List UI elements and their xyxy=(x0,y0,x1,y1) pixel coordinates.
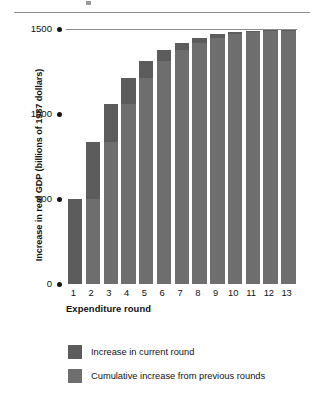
bar-round-6 xyxy=(157,50,171,284)
bar-round-12 xyxy=(263,30,277,284)
bar-segment-previous xyxy=(104,142,118,284)
bar-segment-previous xyxy=(263,31,277,284)
top-horizontal-rule xyxy=(14,12,310,13)
bar-segment-previous xyxy=(246,32,260,284)
bar-round-10 xyxy=(228,32,242,284)
legend-swatch-1 xyxy=(68,345,82,359)
x-tick-label-1: 1 xyxy=(64,287,82,298)
bar-round-11 xyxy=(246,31,260,284)
bar-round-9 xyxy=(210,34,224,284)
bar-segment-current xyxy=(68,199,82,284)
bar-segment-previous xyxy=(228,34,242,284)
bar-segment-previous xyxy=(210,38,224,285)
x-tick-label-5: 5 xyxy=(135,287,153,298)
x-tick-label-12: 12 xyxy=(260,287,278,298)
bar-segment-current xyxy=(175,43,189,51)
bar-segment-previous xyxy=(175,50,189,284)
bar-segment-current xyxy=(228,32,242,34)
y-tick-dot-0 xyxy=(57,282,62,287)
x-tick-label-9: 9 xyxy=(207,287,225,298)
y-tick-dot-1000 xyxy=(57,112,62,117)
chart-legend: Increase in current roundCumulative incr… xyxy=(68,340,265,388)
legend-item-2: Cumulative increase from previous rounds xyxy=(68,364,265,388)
bar-segment-previous xyxy=(86,199,100,284)
x-axis-title: Expenditure round xyxy=(66,303,151,314)
bar-segment-current xyxy=(139,61,153,78)
bar-round-7 xyxy=(175,43,189,284)
bar-round-4 xyxy=(121,78,135,284)
y-tick-label-1500: 1500 xyxy=(12,24,52,34)
bar-segment-current xyxy=(263,30,277,31)
x-tick-label-11: 11 xyxy=(242,287,260,298)
bar-segment-previous xyxy=(139,78,153,284)
y-tick-dot-500 xyxy=(57,197,62,202)
y-axis-title: Increase in real GDP (billions of 1987 d… xyxy=(34,50,44,280)
x-tick-label-10: 10 xyxy=(224,287,242,298)
y-tick-label-1000: 1000 xyxy=(12,109,52,119)
bar-segment-previous xyxy=(192,43,206,284)
bar-round-13 xyxy=(281,30,295,284)
bar-segment-current xyxy=(121,78,135,104)
bar-segment-previous xyxy=(281,30,295,284)
x-tick-label-8: 8 xyxy=(189,287,207,298)
y-tick-dot-1500 xyxy=(57,27,62,32)
x-axis-tick-labels: 12345678910111213 xyxy=(66,287,297,301)
legend-item-1: Increase in current round xyxy=(68,340,265,364)
x-tick-label-7: 7 xyxy=(171,287,189,298)
top-rule-tick-mark xyxy=(86,1,91,5)
bar-round-2 xyxy=(86,142,100,284)
bar-segment-current xyxy=(246,31,260,32)
bar-round-8 xyxy=(192,38,206,285)
x-tick-label-4: 4 xyxy=(118,287,136,298)
bar-segment-current xyxy=(210,34,224,37)
bar-round-3 xyxy=(104,104,118,284)
x-tick-label-13: 13 xyxy=(278,287,296,298)
bar-segment-previous xyxy=(121,104,135,284)
chart-figure: Increase in real GDP (billions of 1987 d… xyxy=(0,0,319,400)
bar-round-1 xyxy=(68,199,82,284)
x-tick-label-3: 3 xyxy=(100,287,118,298)
y-tick-label-500: 500 xyxy=(12,194,52,204)
bar-segment-current xyxy=(86,142,100,199)
legend-swatch-2 xyxy=(68,369,82,383)
plot-area xyxy=(66,29,297,284)
bar-segment-current xyxy=(104,104,118,142)
legend-label-1: Increase in current round xyxy=(91,347,194,358)
bar-round-5 xyxy=(139,61,153,284)
x-tick-label-6: 6 xyxy=(153,287,171,298)
legend-label-2: Cumulative increase from previous rounds xyxy=(91,371,265,382)
bar-segment-current xyxy=(281,30,295,31)
x-tick-label-2: 2 xyxy=(82,287,100,298)
bar-segment-current xyxy=(192,38,206,43)
bar-segment-previous xyxy=(157,61,171,284)
bar-segment-current xyxy=(157,50,171,61)
bar-series xyxy=(66,29,297,284)
y-tick-label-0: 0 xyxy=(12,279,52,289)
